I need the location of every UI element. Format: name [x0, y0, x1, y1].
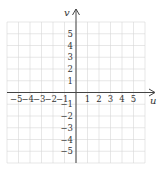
v-tick-label: 1	[68, 76, 73, 86]
u-tick-label: 5	[131, 94, 136, 104]
u-tick-label: 2	[96, 94, 101, 104]
v-tick-label: 4	[68, 41, 73, 51]
v-tick-label: −3	[60, 123, 73, 133]
v-tick-label: −5	[60, 146, 73, 156]
v-tick-label: 5	[68, 29, 73, 39]
v-axis-label: v	[64, 7, 70, 18]
v-tick-label: −4	[60, 135, 73, 145]
v-tick-label: −2	[60, 111, 73, 121]
u-tick-label: 4	[119, 94, 124, 104]
coordinate-plane: u v −5−4−3−2−112345 54321−1−2−3−4−5	[0, 0, 160, 170]
v-tick-label: 3	[68, 52, 73, 62]
axes	[7, 9, 155, 163]
u-tick-label: 3	[108, 94, 113, 104]
u-tick-label: 1	[85, 94, 90, 104]
v-tick-label: 2	[68, 64, 73, 74]
u-tick-labels: −5−4−3−2−112345	[10, 94, 136, 104]
v-tick-label: −1	[60, 99, 73, 109]
u-axis-label: u	[150, 95, 156, 106]
